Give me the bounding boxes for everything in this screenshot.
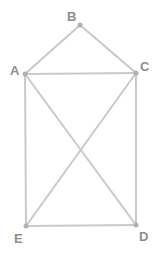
edge-a-e <box>25 74 26 226</box>
edge-e-d <box>26 225 136 226</box>
vertex-label-b: B <box>67 10 76 23</box>
vertex-a <box>23 72 28 77</box>
vertex-d <box>134 223 139 228</box>
edge-a-c <box>25 73 136 74</box>
vertex-label-d: D <box>139 230 148 243</box>
edge-a-b <box>25 25 80 74</box>
vertex-b <box>78 23 83 28</box>
vertex-label-c: C <box>140 60 149 73</box>
vertex-label-a: A <box>10 64 19 77</box>
vertex-label-e: E <box>14 232 23 245</box>
graph-diagram <box>0 0 161 259</box>
vertex-e <box>24 224 29 229</box>
edge-b-c <box>80 25 136 73</box>
vertex-c <box>134 71 139 76</box>
